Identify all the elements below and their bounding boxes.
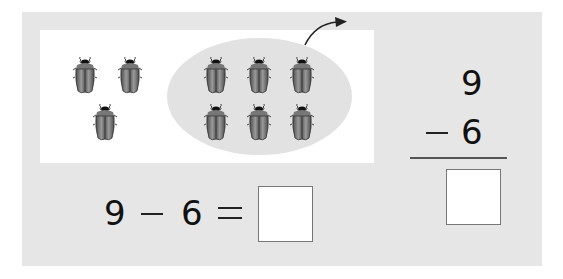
beetle-icon (117, 55, 143, 95)
subtrahend: 6 (181, 196, 203, 230)
sum-line (410, 157, 507, 159)
equals-sign-bottom (218, 217, 242, 219)
answer-box-horizontal[interactable] (258, 186, 313, 242)
beetle-icon (246, 55, 272, 95)
vertical-subtrahend: 6 (461, 115, 483, 149)
beetle-icon (203, 102, 229, 142)
equals-sign-top (218, 207, 242, 209)
vertical-minus-sign (426, 132, 448, 134)
beetle-icon (203, 55, 229, 95)
answer-box-vertical[interactable] (446, 169, 501, 225)
minuend: 9 (104, 196, 126, 230)
beetle-icon (92, 102, 118, 142)
beetle-icon (246, 102, 272, 142)
beetle-icon (289, 55, 315, 95)
curved-arrow-right-icon (295, 12, 360, 52)
beetle-icon (72, 55, 98, 95)
beetle-icon (289, 102, 315, 142)
minus-sign (141, 213, 163, 215)
vertical-minuend: 9 (461, 66, 483, 100)
